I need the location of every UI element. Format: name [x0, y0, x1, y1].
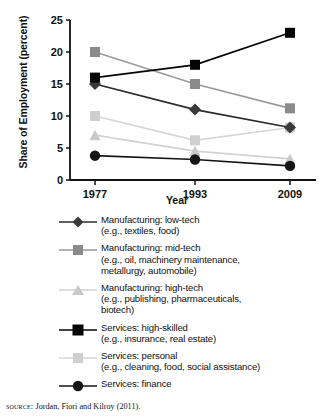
source-text: Jordan, Fiori and Kilroy (2011).	[33, 402, 140, 411]
figure: Share of Employment (percent) 0510152025…	[0, 0, 326, 419]
legend-label: Manufacturing: mid-tech (e.g., oil, mach…	[101, 242, 326, 276]
legend-line-2: (e.g., textiles, food)	[101, 225, 322, 236]
legend-item[interactable]: Manufacturing: mid-tech (e.g., oil, mach…	[0, 242, 326, 276]
line-chart: 0510152025197719932009	[0, 0, 326, 212]
legend-line-3: metallurgy, automobile)	[101, 265, 322, 276]
x-axis-title: Year	[0, 194, 326, 206]
y-tick-label: 20	[51, 46, 63, 58]
legend-line-2: (e.g., publishing, pharmaceuticals,	[101, 293, 322, 304]
square-marker-icon	[55, 351, 101, 365]
data-point	[285, 161, 295, 171]
triangle-marker-icon	[55, 283, 101, 297]
legend-line-1: Services: personal	[101, 350, 322, 361]
legend-line-3: biotech)	[101, 304, 322, 315]
legend-item[interactable]: Services: personal (e.g., cleaning, food…	[0, 350, 326, 372]
data-point	[90, 150, 100, 160]
plot-area: Share of Employment (percent) 0510152025…	[0, 0, 326, 212]
source-keyword: source:	[6, 401, 33, 411]
y-tick-label: 5	[57, 142, 63, 154]
source-note: source: Jordan, Fiori and Kilroy (2011).	[6, 401, 324, 411]
legend-line-2: (e.g., insurance, real estate)	[101, 333, 322, 344]
legend-line-1: Manufacturing: low-tech	[101, 214, 322, 225]
circle-marker-icon	[55, 379, 101, 393]
data-point	[285, 28, 295, 38]
series-square	[90, 28, 295, 83]
data-point	[190, 79, 200, 89]
legend-line-2: (e.g., oil, machinery maintenance,	[101, 254, 322, 265]
y-tick-label: 0	[57, 174, 63, 186]
y-tick-label: 15	[51, 78, 63, 90]
legend-line-2: (e.g., cleaning, food, social assistance…	[101, 361, 322, 372]
chart-legend: Manufacturing: low-tech (e.g., textiles,…	[0, 214, 326, 399]
data-point	[190, 60, 200, 70]
legend-label: Services: high-skilled (e.g., insurance,…	[101, 322, 326, 344]
y-tick-label: 10	[51, 110, 63, 122]
data-point	[285, 103, 295, 113]
y-tick-label: 25	[51, 14, 63, 26]
data-point	[189, 104, 201, 116]
data-point	[90, 130, 101, 141]
legend-line-1: Services: high-skilled	[101, 322, 322, 333]
data-point	[90, 111, 100, 121]
legend-label: Manufacturing: low-tech (e.g., textiles,…	[101, 214, 326, 236]
diamond-marker-icon	[55, 215, 101, 229]
legend-line-1: Services: finance	[101, 378, 322, 389]
legend-label: Manufacturing: high-tech (e.g., publishi…	[101, 282, 326, 316]
data-point	[90, 47, 100, 57]
legend-line-1: Manufacturing: high-tech	[101, 282, 322, 293]
legend-item[interactable]: Manufacturing: high-tech (e.g., publishi…	[0, 282, 326, 316]
legend-item[interactable]: Services: finance	[0, 378, 326, 393]
square-marker-icon	[55, 243, 101, 257]
x-axis-title-text: Year	[166, 194, 188, 206]
legend-label: Services: personal (e.g., cleaning, food…	[101, 350, 326, 372]
series-square	[90, 47, 295, 113]
legend-item[interactable]: Services: high-skilled (e.g., insurance,…	[0, 322, 326, 344]
square-marker-icon	[55, 323, 101, 337]
data-point	[90, 73, 100, 83]
legend-item[interactable]: Manufacturing: low-tech (e.g., textiles,…	[0, 214, 326, 236]
legend-label: Services: finance	[101, 378, 326, 389]
legend-line-1: Manufacturing: mid-tech	[101, 242, 322, 253]
data-point	[190, 154, 200, 164]
data-point	[190, 135, 200, 145]
